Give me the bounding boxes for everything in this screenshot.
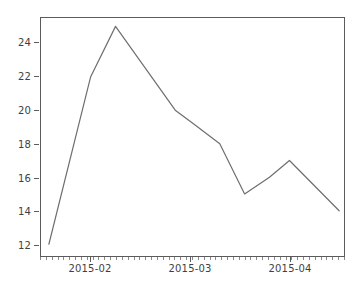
y-axis-tick-mark	[34, 42, 39, 43]
x-axis-minor-tick	[169, 257, 170, 260]
y-axis-tick-mark	[34, 178, 39, 179]
x-axis-minor-tick	[87, 257, 88, 260]
plot-area	[40, 17, 345, 257]
y-axis-tick-label: 24	[18, 37, 31, 48]
x-axis-minor-tick	[151, 257, 152, 260]
x-axis-minor-tick	[98, 257, 99, 260]
x-axis-minor-tick	[262, 257, 263, 260]
x-axis-minor-tick	[315, 257, 316, 260]
y-axis-tick-mark	[34, 144, 39, 145]
y-axis-tick-label: 12	[18, 240, 31, 251]
x-axis-minor-tick	[116, 257, 117, 260]
x-axis-minor-tick	[139, 257, 140, 260]
x-axis-minor-tick	[163, 257, 164, 260]
x-axis-minor-tick	[46, 257, 47, 260]
x-axis-minor-tick	[204, 257, 205, 260]
x-axis-tick-label: 2015-03	[168, 263, 211, 274]
y-axis-tick-mark	[34, 245, 39, 246]
x-axis-tick-label: 2015-04	[269, 263, 312, 274]
line-series	[41, 18, 344, 256]
figure-canvas: 12141618202224 2015-022015-032015-04	[0, 0, 364, 285]
x-axis-minor-tick	[332, 257, 333, 260]
x-axis-minor-tick	[309, 257, 310, 260]
x-axis-minor-tick	[52, 257, 53, 260]
x-axis-minor-tick	[122, 257, 123, 260]
y-axis-tick-mark	[34, 211, 39, 212]
x-axis-minor-tick	[239, 257, 240, 260]
y-axis-tick-label: 14	[18, 206, 31, 217]
x-axis-minor-tick	[81, 257, 82, 260]
y-axis-tick-label: 22	[18, 71, 31, 82]
x-axis-minor-tick	[110, 257, 111, 260]
x-axis-minor-tick	[297, 257, 298, 260]
x-axis-minor-tick	[286, 257, 287, 260]
x-axis-minor-tick	[245, 257, 246, 260]
x-axis-minor-tick	[256, 257, 257, 260]
x-axis-minor-tick	[233, 257, 234, 260]
x-axis-minor-tick	[58, 257, 59, 260]
x-axis-minor-tick	[227, 257, 228, 260]
x-axis-minor-tick	[291, 257, 292, 260]
x-axis-minor-tick	[104, 257, 105, 260]
x-axis-tick-label: 2015-02	[68, 263, 111, 274]
x-axis-minor-tick	[93, 257, 94, 260]
x-axis-minor-tick	[145, 257, 146, 260]
y-axis-tick-label: 20	[18, 104, 31, 115]
x-axis-minor-tick	[192, 257, 193, 260]
x-axis-minor-tick	[250, 257, 251, 260]
x-axis-minor-tick	[280, 257, 281, 260]
x-axis-minor-tick	[128, 257, 129, 260]
y-axis-tick-mark	[34, 76, 39, 77]
data-line	[49, 26, 339, 244]
x-axis-minor-tick	[303, 257, 304, 260]
y-axis-tick-label: 16	[18, 172, 31, 183]
x-axis-minor-tick	[63, 257, 64, 260]
x-axis-minor-tick	[210, 257, 211, 260]
x-axis-minor-tick	[69, 257, 70, 260]
x-axis-major-tick	[90, 257, 91, 262]
x-axis-minor-tick	[40, 257, 41, 260]
x-axis-minor-tick	[180, 257, 181, 260]
x-axis-minor-tick	[134, 257, 135, 260]
x-axis-minor-tick	[215, 257, 216, 260]
x-axis-major-tick	[290, 257, 291, 262]
x-axis-minor-tick	[221, 257, 222, 260]
x-axis-minor-tick	[75, 257, 76, 260]
x-axis-major-tick	[190, 257, 191, 262]
x-axis-minor-tick	[344, 257, 345, 260]
x-axis-minor-tick	[268, 257, 269, 260]
x-axis-minor-tick	[338, 257, 339, 260]
y-axis-tick-labels: 12141618202224	[0, 0, 31, 285]
y-axis-tick-label: 18	[18, 138, 31, 149]
x-axis-minor-tick	[186, 257, 187, 260]
x-axis-minor-tick	[198, 257, 199, 260]
x-axis-minor-tick	[321, 257, 322, 260]
x-axis-minor-tick	[274, 257, 275, 260]
x-axis-minor-tick	[157, 257, 158, 260]
x-axis-minor-tick	[174, 257, 175, 260]
x-axis-minor-tick	[326, 257, 327, 260]
y-axis-tick-mark	[34, 110, 39, 111]
